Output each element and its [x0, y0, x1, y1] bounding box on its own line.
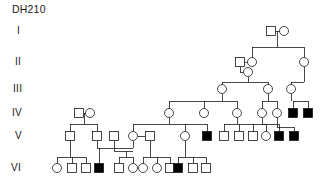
- individual-iii-2[interactable]: [264, 85, 273, 94]
- pedigree-canvas: DH210 I II III IV V VI: [0, 0, 325, 190]
- individual-iv-8[interactable]: [289, 109, 298, 118]
- individual-v-9[interactable]: [235, 132, 244, 141]
- mating-line-ii-1-ii-4: [240, 67, 244, 73]
- individual-ii-3[interactable]: [300, 58, 309, 67]
- pedigree-connectors: [57, 31, 308, 164]
- generation-label-v: V: [15, 130, 22, 141]
- individual-vi-11[interactable]: [189, 164, 198, 173]
- generation-label-i: I: [17, 25, 20, 36]
- individual-ii-2[interactable]: [248, 58, 257, 67]
- individual-vi-6[interactable]: [129, 164, 138, 173]
- individual-vi-8[interactable]: [153, 164, 162, 173]
- individual-vi-2[interactable]: [68, 164, 77, 173]
- individual-v-7[interactable]: [203, 132, 212, 141]
- pedigree-chart: DH210 I II III IV V VI: [0, 0, 325, 190]
- individual-i-2[interactable]: [280, 27, 289, 36]
- individual-iv-3[interactable]: [165, 109, 174, 118]
- individual-vi-3[interactable]: [82, 164, 91, 173]
- mating-line-v-2-v-4: [97, 141, 133, 149]
- individual-v-6[interactable]: [181, 132, 190, 141]
- individual-v-5[interactable]: [146, 132, 155, 141]
- descent-line-iv-7-to-v-13: [277, 118, 294, 132]
- individual-vi-1[interactable]: [53, 164, 62, 173]
- individual-iv-1[interactable]: [75, 109, 84, 118]
- generation-label-vi: VI: [11, 162, 21, 173]
- individual-iv-7[interactable]: [273, 109, 282, 118]
- individual-v-10[interactable]: [249, 132, 258, 141]
- individual-ii-4[interactable]: [244, 68, 253, 77]
- individual-v-11[interactable]: [262, 132, 271, 141]
- individual-vi-10[interactable]: [174, 164, 183, 173]
- individual-iv-2[interactable]: [86, 109, 95, 118]
- generation-label-ii: II: [15, 56, 21, 67]
- individual-v-1[interactable]: [66, 132, 75, 141]
- generation-label-iv: IV: [12, 107, 22, 118]
- chart-title: DH210: [12, 3, 46, 15]
- individual-iv-5[interactable]: [233, 109, 242, 118]
- mating-line-v-3-v-4: [114, 141, 133, 152]
- individual-v-4[interactable]: [129, 132, 138, 141]
- individual-v-13[interactable]: [290, 132, 299, 141]
- generation-label-iii: III: [13, 83, 22, 94]
- individual-v-8[interactable]: [220, 132, 229, 141]
- individual-i-1[interactable]: [267, 27, 276, 36]
- individual-ii-1[interactable]: [236, 58, 245, 67]
- individual-iii-3[interactable]: [287, 85, 296, 94]
- descent-line-ii-3-to-iii-3: [291, 67, 304, 85]
- pedigree-symbols: [53, 27, 313, 173]
- descent-line-iv-6-to-v-12: [262, 118, 279, 132]
- individual-iv-9[interactable]: [304, 109, 313, 118]
- individual-iii-1[interactable]: [218, 85, 227, 94]
- individual-v-12[interactable]: [275, 132, 284, 141]
- individual-v-2[interactable]: [93, 132, 102, 141]
- individual-vi-5[interactable]: [115, 164, 124, 173]
- individual-v-3[interactable]: [110, 132, 119, 141]
- individual-vi-12[interactable]: [202, 164, 211, 173]
- individual-vi-4[interactable]: [95, 164, 104, 173]
- individual-iv-4[interactable]: [200, 109, 209, 118]
- individual-vi-7[interactable]: [139, 164, 148, 173]
- individual-iv-6[interactable]: [258, 109, 267, 118]
